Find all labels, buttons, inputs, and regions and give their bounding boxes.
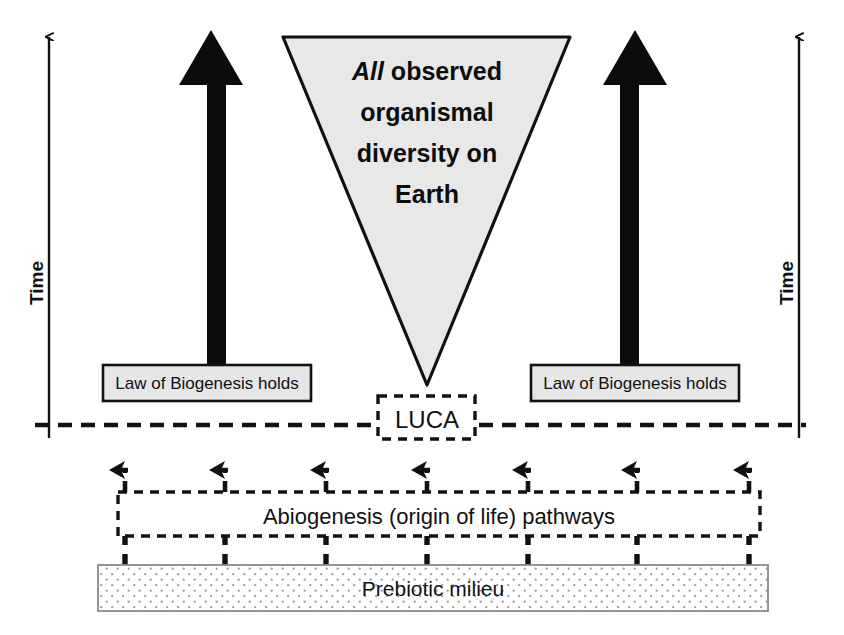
figure-root: Time Time All observed organismal divers… [0,0,844,635]
right-time-axis-label: Time [776,261,797,305]
luca-label: LUCA [395,406,459,433]
law-of-biogenesis-left-label: Law of Biogenesis holds [115,374,298,393]
thick-arrow-right-shape [603,30,667,368]
thick-arrow-left-shape [179,30,243,368]
triangle-text-line-3: diversity on [357,139,497,167]
luca-node: LUCA [378,396,475,439]
abiogenesis-pathways-box: Abiogenesis (origin of life) pathways [118,492,760,536]
prebiotic-milieu-box: Prebiotic milieu [98,565,768,611]
triangle-text-line-4: Earth [395,180,459,208]
triangle-line-1-rest: observed [384,57,502,85]
thick-upward-arrow-left [179,30,243,368]
prebiotic-milieu-label: Prebiotic milieu [362,577,504,600]
law-of-biogenesis-right-label: Law of Biogenesis holds [543,374,726,393]
left-time-axis: Time [26,37,49,438]
right-time-axis: Time [776,37,799,438]
diversity-triangle: All observed organismal diversity on Ear… [283,37,570,385]
diversity-triangle-shape [283,37,570,385]
triangle-text-line-1: All observed [351,57,502,85]
abiogenesis-box-label: Abiogenesis (origin of life) pathways [263,504,615,529]
abiogenesis-diagram: Time Time All observed organismal divers… [0,0,844,635]
left-time-axis-label: Time [26,261,47,305]
triangle-text-line-2: organismal [360,98,493,126]
thick-upward-arrow-right [603,30,667,368]
law-of-biogenesis-box-right: Law of Biogenesis holds [531,365,739,401]
law-of-biogenesis-box-left: Law of Biogenesis holds [103,365,311,401]
triangle-emphasis-word: All [351,57,385,85]
